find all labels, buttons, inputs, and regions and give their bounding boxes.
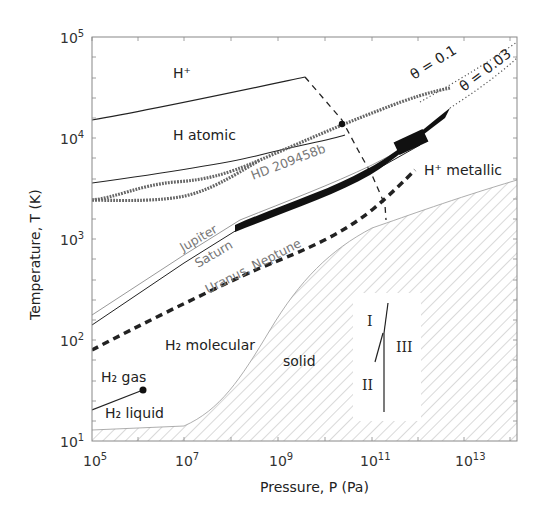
y-tick-5: 105	[60, 28, 84, 46]
label-theta-0.03: θ = 0.03	[456, 45, 514, 94]
label-phase-III: III	[396, 339, 413, 355]
h-plus-boundary	[92, 77, 305, 120]
label-phase-I: I	[367, 313, 373, 329]
label-h-plus: H⁺	[173, 65, 191, 81]
y-tick-2: 102	[60, 331, 84, 349]
x-tick-9: 109	[269, 451, 293, 469]
y-tick-3: 103	[60, 230, 84, 248]
label-h2-liquid: H₂ liquid	[105, 405, 164, 421]
label-solid: solid	[283, 353, 316, 369]
hd209458b-lower	[92, 160, 260, 201]
label-h2-molecular: H₂ molecular	[165, 337, 255, 353]
band-end-block	[394, 129, 429, 155]
label-phase-II: II	[362, 377, 373, 393]
label-theta-0.1: θ = 0.1	[407, 42, 459, 83]
y-axis-title: Temperature, T (K)	[27, 189, 43, 321]
y-tick-4: 104	[60, 129, 84, 147]
x-tick-7: 107	[175, 451, 199, 469]
solid-region	[92, 180, 517, 441]
critical-point-hd	[339, 121, 345, 127]
label-h2-gas: H₂ gas	[101, 369, 146, 385]
label-h-atomic: H atomic	[173, 127, 236, 143]
critical-point	[140, 387, 147, 394]
x-axis-title: Pressure, P (Pa)	[260, 479, 369, 495]
x-tick-13: 1013	[455, 451, 486, 469]
x-tick-11: 1011	[360, 451, 391, 469]
label-h-metallic: H⁺ metallic	[424, 162, 502, 178]
y-tick-1: 101	[60, 432, 84, 450]
x-tick-5: 105	[83, 451, 107, 469]
phase-diagram: 105 104 103 102 101 105 107 109 1011 101…	[0, 0, 547, 514]
